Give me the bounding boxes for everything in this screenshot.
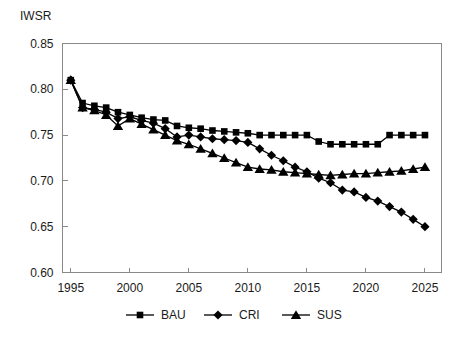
legend-marker-square xyxy=(137,312,144,319)
series-bau xyxy=(67,77,428,148)
data-point-marker xyxy=(196,132,205,141)
series-layer xyxy=(66,75,431,231)
chart-legend: BAUCRISUS xyxy=(126,308,342,322)
x-tick-label: 2000 xyxy=(116,281,143,295)
data-point-marker xyxy=(292,132,299,139)
data-point-marker xyxy=(184,131,193,140)
legend-item-bau[interactable]: BAU xyxy=(126,308,186,322)
data-point-marker xyxy=(361,193,370,202)
data-point-marker xyxy=(174,123,181,130)
data-point-marker xyxy=(245,130,252,137)
y-axis: 0.600.650.700.750.800.85 xyxy=(30,37,67,280)
data-point-marker xyxy=(304,132,311,139)
x-tick-label: 2020 xyxy=(353,281,380,295)
data-point-marker xyxy=(207,149,217,158)
series-cri xyxy=(66,76,429,232)
legend-marker-diamond xyxy=(213,310,222,319)
data-point-marker xyxy=(338,185,347,194)
x-tick-label: 1995 xyxy=(57,281,84,295)
data-point-marker xyxy=(351,141,358,148)
data-point-marker xyxy=(420,222,429,231)
series-line xyxy=(71,80,425,227)
data-point-marker xyxy=(220,135,229,144)
data-point-marker xyxy=(221,128,228,135)
x-axis: 1995200020052010201520202025 xyxy=(57,268,438,295)
legend-item-cri[interactable]: CRI xyxy=(204,308,260,322)
y-tick-label: 0.85 xyxy=(30,37,54,51)
series-line xyxy=(71,80,425,175)
x-tick-label: 2015 xyxy=(294,281,321,295)
x-tick-label: 2010 xyxy=(235,281,262,295)
data-point-marker xyxy=(184,139,194,148)
data-point-marker xyxy=(385,202,394,211)
data-point-marker xyxy=(397,207,406,216)
x-tick-label: 2025 xyxy=(412,281,439,295)
data-point-marker xyxy=(208,134,217,143)
data-point-marker xyxy=(327,141,334,148)
data-point-marker xyxy=(409,215,418,224)
legend-label: BAU xyxy=(161,308,186,322)
legend-label: CRI xyxy=(239,308,260,322)
x-tick-label: 2005 xyxy=(175,281,202,295)
data-point-marker xyxy=(315,138,322,145)
data-point-marker xyxy=(162,117,169,124)
data-point-marker xyxy=(233,129,240,136)
chart-title: IWSR xyxy=(20,9,52,23)
y-tick-label: 0.60 xyxy=(30,266,54,280)
plot-frame xyxy=(63,44,442,273)
data-point-marker xyxy=(148,125,158,134)
y-tick-label: 0.65 xyxy=(30,220,54,234)
chart-container: IWSR 0.600.650.700.750.800.85 1995200020… xyxy=(0,0,460,337)
legend-item-sus[interactable]: SUS xyxy=(282,308,342,322)
data-point-marker xyxy=(373,196,382,205)
data-point-marker xyxy=(197,125,204,132)
data-point-marker xyxy=(326,178,335,187)
data-point-marker xyxy=(219,153,229,162)
data-point-marker xyxy=(410,132,417,139)
data-point-marker xyxy=(280,132,287,139)
data-point-marker xyxy=(231,136,240,145)
data-point-marker xyxy=(243,138,252,147)
plot-border xyxy=(63,44,442,273)
y-tick-label: 0.70 xyxy=(30,174,54,188)
data-point-marker xyxy=(186,124,193,131)
data-point-marker xyxy=(231,158,241,167)
data-point-marker xyxy=(339,141,346,148)
data-point-marker xyxy=(195,144,205,153)
data-point-marker xyxy=(267,151,276,160)
legend-label: SUS xyxy=(317,308,342,322)
series-sus xyxy=(66,75,431,179)
data-point-marker xyxy=(374,141,381,148)
data-point-marker xyxy=(363,141,370,148)
data-point-marker xyxy=(268,132,275,139)
data-point-marker xyxy=(420,162,430,171)
y-tick-label: 0.75 xyxy=(30,128,54,142)
data-point-marker xyxy=(398,132,405,139)
data-point-marker xyxy=(386,132,393,139)
data-point-marker xyxy=(243,162,253,171)
data-point-marker xyxy=(350,187,359,196)
data-point-marker xyxy=(255,144,264,153)
y-tick-label: 0.80 xyxy=(30,82,54,96)
data-point-marker xyxy=(422,132,429,139)
data-point-marker xyxy=(256,132,263,139)
data-point-marker xyxy=(279,156,288,165)
data-point-marker xyxy=(209,127,216,134)
iwsr-line-chart: IWSR 0.600.650.700.750.800.85 1995200020… xyxy=(0,0,460,337)
